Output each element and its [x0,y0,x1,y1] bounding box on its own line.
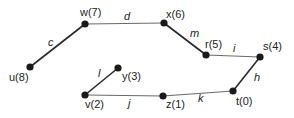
edge-label-l: l [98,67,101,79]
edge-r-s [206,55,260,57]
node-label-t: t(0) [236,95,253,107]
node-x [160,19,167,26]
graph-canvas: cdmihkjl w(7)u(8)x(6)r(5)s(4)t(0)z(1)v(2… [0,0,294,118]
nodes-layer [26,19,263,99]
node-label-r: r(5) [205,38,222,50]
edge-x-r [164,23,206,55]
edge-v-y [85,68,118,95]
node-u [26,63,33,70]
node-label-s: s(4) [263,40,282,52]
edge-label-c: c [48,36,54,48]
node-t [229,87,236,94]
node-label-y: y(3) [122,70,141,82]
node-s [256,53,263,60]
node-label-x: x(6) [166,8,185,20]
edge-labels-layer: cdmihkjl [48,10,260,109]
edges-layer [30,23,260,96]
node-labels-layer: w(7)u(8)x(6)r(5)s(4)t(0)z(1)v(2)y(3) [9,6,282,110]
edge-label-k: k [198,92,204,104]
node-y [114,64,121,71]
node-label-z: z(1) [166,98,185,110]
edge-label-m: m [190,27,199,39]
edge-u-w [30,24,85,67]
edge-w-x [85,23,164,24]
edge-label-h: h [254,71,260,83]
node-label-w: w(7) [79,6,101,18]
edge-label-j: j [126,97,131,109]
edge-label-d: d [124,10,131,22]
edge-label-i: i [233,42,236,54]
edge-z-v [85,95,163,96]
node-r [202,51,209,58]
node-w [81,20,88,27]
graph-diagram: cdmihkjl w(7)u(8)x(6)r(5)s(4)t(0)z(1)v(2… [0,0,294,118]
node-label-u: u(8) [9,71,29,83]
node-label-v: v(2) [85,98,104,110]
